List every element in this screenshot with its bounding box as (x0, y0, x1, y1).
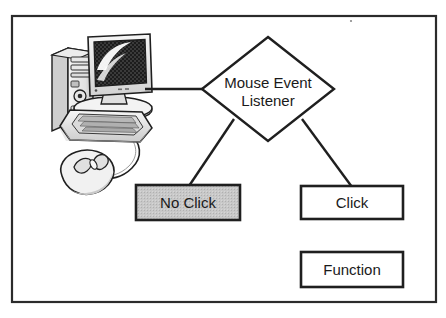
diagram-canvas: Mouse Event Listener No Click Click Func… (0, 0, 446, 318)
node-click[interactable]: Click (301, 186, 403, 219)
function-label: Function (323, 261, 381, 278)
node-function[interactable]: Function (301, 252, 403, 287)
node-no-click[interactable]: No Click (136, 185, 240, 220)
click-label: Click (336, 194, 369, 211)
computer-keyboard (60, 110, 152, 142)
no-click-label: No Click (160, 194, 216, 211)
diagram-svg: Mouse Event Listener No Click Click Func… (0, 0, 446, 318)
scan-speck (350, 20, 352, 22)
listener-label-line2: Listener (241, 92, 294, 109)
listener-label-line1: Mouse Event (224, 74, 312, 91)
